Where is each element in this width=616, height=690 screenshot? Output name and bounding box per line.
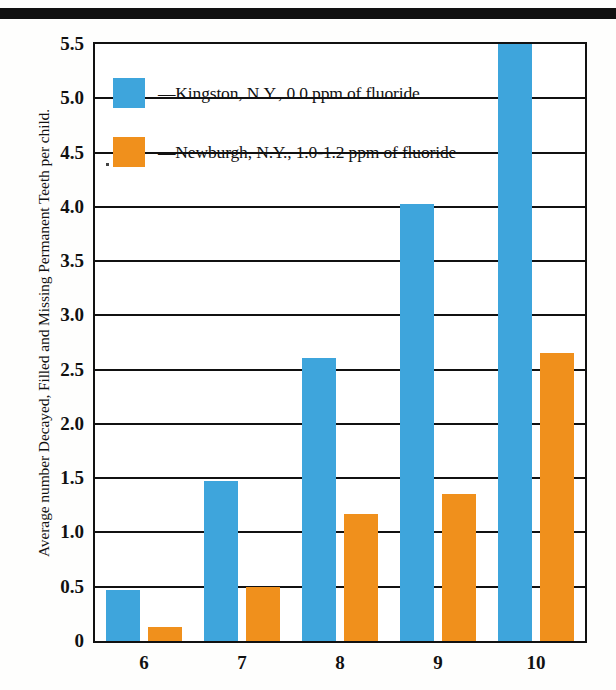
bar-kingston-age-8 [302, 358, 336, 641]
bar-newburgh-age-6 [148, 627, 182, 641]
legend-swatch-kingston [113, 78, 145, 108]
bar-kingston-age-9 [400, 204, 434, 641]
y-axis-title: Average number Decayed, Filled and Missi… [31, 33, 57, 633]
bar-kingston-age-10 [498, 44, 532, 641]
chart-figure: Average number Decayed, Filled and Missi… [0, 0, 616, 690]
bar-newburgh-age-9 [442, 494, 476, 641]
x-tick-label: 7 [212, 652, 272, 674]
bar-kingston-age-6 [106, 590, 140, 641]
legend-swatch-newburgh [113, 137, 145, 167]
top-rule-decoration [0, 8, 616, 19]
legend-entry-kingston: —Kingston, N.Y., 0.0 ppm of fluoride [113, 78, 420, 108]
x-tick-label: 10 [506, 652, 566, 674]
speck-artifact [106, 163, 109, 166]
bar-newburgh-age-7 [246, 587, 280, 641]
y-tick-label: 0 [32, 630, 84, 652]
legend-label-kingston: —Kingston, N.Y., 0.0 ppm of fluoride [158, 83, 420, 104]
x-tick-label: 8 [310, 652, 370, 674]
legend-entry-newburgh: —Newburgh, N.Y., 1.0-1.2 ppm of fluoride [113, 137, 456, 167]
bar-newburgh-age-10 [540, 353, 574, 641]
x-tick-label: 6 [114, 652, 174, 674]
plot-area: —Kingston, N.Y., 0.0 ppm of fluoride —Ne… [93, 42, 587, 643]
legend-label-newburgh: —Newburgh, N.Y., 1.0-1.2 ppm of fluoride [158, 142, 456, 163]
bar-newburgh-age-8 [344, 514, 378, 641]
x-tick-label: 9 [408, 652, 468, 674]
bar-kingston-age-7 [204, 481, 238, 641]
